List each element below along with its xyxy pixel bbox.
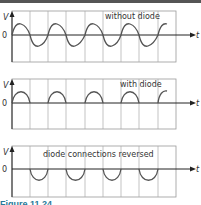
v-axis-label: V — [3, 148, 9, 157]
origin-label: 0 — [2, 99, 7, 108]
t-axis-label: t — [196, 165, 200, 174]
panel-title: diode connections reversed — [43, 150, 154, 159]
origin-label: 0 — [2, 31, 7, 40]
panel-without-diode: V 0 t without diode — [2, 11, 200, 62]
origin-label: 0 — [2, 165, 7, 174]
t-axis-label: t — [196, 99, 200, 108]
diode-waveform-diagram: V 0 t without diode V 0 t with diode — [0, 0, 201, 205]
panel-title: without diode — [105, 12, 160, 21]
figure-caption: Figure 11.24 — [0, 199, 52, 205]
v-axis-label: V — [3, 81, 9, 90]
panel-title: with diode — [120, 80, 162, 89]
panel-diode-reversed: V 0 t diode connections reversed — [2, 146, 200, 197]
t-axis-label: t — [196, 31, 200, 40]
panel-with-diode: V 0 t with diode — [2, 79, 200, 129]
v-axis-label: V — [3, 13, 9, 22]
